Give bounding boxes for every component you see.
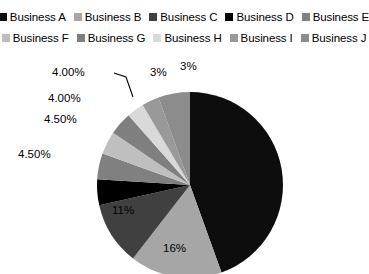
data-label-16: 16% bbox=[163, 242, 186, 254]
legend-item-business-a[interactable]: Business A bbox=[0, 11, 66, 23]
legend-item-business-b[interactable]: Business B bbox=[74, 11, 142, 23]
legend-swatch-icon bbox=[153, 34, 161, 42]
legend-swatch-icon bbox=[2, 34, 10, 42]
legend-label: Business I bbox=[241, 32, 293, 44]
pie-plot-area: 4.00% 4.00% 4.50% 4.50% 3% 3% 11% 16% bbox=[0, 56, 368, 274]
legend-label: Business G bbox=[88, 32, 146, 44]
legend-item-business-e[interactable]: Business E bbox=[302, 11, 369, 23]
legend-swatch-icon bbox=[77, 34, 85, 42]
legend-label: Business E bbox=[313, 11, 369, 23]
data-label-4-50-a: 4.50% bbox=[44, 113, 77, 125]
legend-label: Business J bbox=[312, 32, 367, 44]
legend-swatch-icon bbox=[302, 13, 310, 21]
legend-item-business-i[interactable]: Business I bbox=[230, 32, 293, 44]
chart-legend: Business A Business B Business C Busines… bbox=[0, 6, 368, 48]
data-label-4-00-b: 4.00% bbox=[48, 92, 81, 104]
data-label-4-00-a: 4.00% bbox=[52, 66, 85, 78]
legend-row-2: Business F Business G Business H Busines… bbox=[0, 27, 368, 48]
legend-swatch-icon bbox=[0, 13, 7, 21]
legend-swatch-icon bbox=[230, 34, 238, 42]
legend-swatch-icon bbox=[74, 13, 82, 21]
legend-row-1: Business A Business B Business C Busines… bbox=[0, 6, 368, 27]
legend-label: Business H bbox=[164, 32, 221, 44]
legend-item-business-d[interactable]: Business D bbox=[225, 11, 293, 23]
legend-label: Business C bbox=[160, 11, 217, 23]
data-label-11: 11% bbox=[112, 204, 134, 216]
data-label-4-50-b: 4.50% bbox=[18, 148, 51, 160]
legend-label: Business B bbox=[85, 11, 142, 23]
legend-item-business-c[interactable]: Business C bbox=[149, 11, 217, 23]
legend-swatch-icon bbox=[225, 13, 233, 21]
legend-label: Business A bbox=[10, 11, 66, 23]
data-label-3-b: 3% bbox=[180, 60, 197, 72]
legend-swatch-icon bbox=[301, 34, 309, 42]
legend-item-business-j[interactable]: Business J bbox=[301, 32, 367, 44]
legend-label: Business F bbox=[13, 32, 69, 44]
data-label-3-a: 3% bbox=[150, 66, 167, 78]
legend-item-business-f[interactable]: Business F bbox=[2, 32, 69, 44]
legend-item-business-h[interactable]: Business H bbox=[153, 32, 221, 44]
legend-swatch-icon bbox=[149, 13, 157, 21]
legend-item-business-g[interactable]: Business G bbox=[77, 32, 146, 44]
legend-label: Business D bbox=[236, 11, 293, 23]
